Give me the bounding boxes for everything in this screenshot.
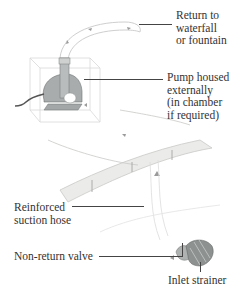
label-pump-housed-externally: Pump housed externally (in chamber if re… (167, 71, 229, 121)
flow-arrows (66, 27, 174, 260)
label-non-return-valve: Non-return valve (14, 250, 93, 263)
leader-return (139, 24, 172, 25)
leader-valve (99, 256, 182, 257)
label-reinforced-suction-hose: Reinforced suction hose (14, 201, 71, 226)
leader-strainer (200, 262, 201, 272)
label-inlet-strainer: Inlet strainer (168, 274, 226, 287)
suction-hose (48, 110, 220, 240)
leader-hose (72, 206, 144, 207)
leader-valve-vertical (182, 243, 183, 257)
leader-pump (84, 79, 163, 80)
pump (15, 58, 82, 110)
label-return-to-waterfall: Return to waterfall or fountain (176, 9, 227, 47)
